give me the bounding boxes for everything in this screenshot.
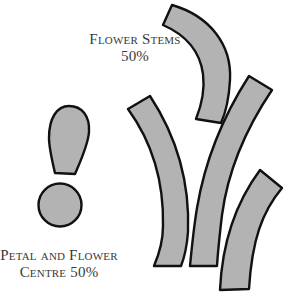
flower-stems-label-title: Flower Stems	[84, 31, 186, 48]
flower-stem-2	[128, 96, 188, 266]
flower-centre	[39, 184, 82, 227]
flower-stem-4	[220, 170, 282, 290]
petal-label-percent: Centre 50%	[0, 264, 118, 281]
flower-stems-label: Flower Stems 50%	[84, 31, 186, 65]
flower-stems-label-percent: 50%	[84, 48, 186, 65]
petal	[49, 106, 89, 174]
petal-label-title: Petal and Flower	[0, 247, 118, 264]
petal-label: Petal and Flower Centre 50%	[0, 247, 118, 281]
